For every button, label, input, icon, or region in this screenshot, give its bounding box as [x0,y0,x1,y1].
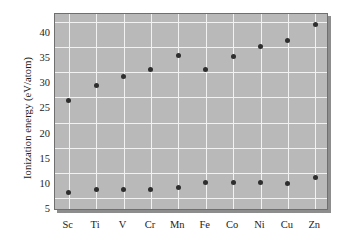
x-tick-label: Zn [297,218,331,232]
ionization-energy-scatter-chart: Ionization energy (eV/atom) 510152025303… [0,0,337,246]
gridline-vertical [124,14,125,209]
data-point [66,190,71,195]
data-point [231,54,236,59]
y-tick-label: 15 [26,154,50,164]
data-point [258,44,263,49]
gridline-vertical [69,14,70,209]
y-tick-label: 5 [26,204,50,214]
data-point [231,180,236,185]
data-point [121,74,126,79]
gridline-vertical [96,14,97,209]
data-point [285,181,290,186]
data-point [66,98,71,103]
y-tick-label: 30 [26,78,50,88]
data-point [176,185,181,190]
gridline-vertical [315,14,316,209]
data-point [258,180,263,185]
data-point [148,187,153,192]
y-tick-label: 35 [26,53,50,63]
gridline-vertical [178,14,179,209]
data-point [285,38,290,43]
gridline-vertical [151,14,152,209]
plot-area [54,13,328,210]
data-point [313,175,318,180]
data-point [94,83,99,88]
y-tick-label: 20 [26,129,50,139]
data-point [94,187,99,192]
y-tick-label: 10 [26,179,50,189]
y-axis-tick-labels: 510152025303540 [26,12,50,202]
x-axis-tick-labels: ScTiVCrMnFeCoNiCuZn [54,218,328,234]
y-tick-label: 25 [26,103,50,113]
y-tick-label: 40 [26,28,50,38]
data-point [203,180,208,185]
data-point [176,53,181,58]
data-point [203,67,208,72]
gridline-vertical [288,14,289,209]
data-point [121,187,126,192]
data-point [313,22,318,27]
